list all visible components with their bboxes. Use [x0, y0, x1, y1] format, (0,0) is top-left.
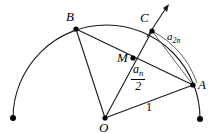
label-point-a: A [198, 78, 206, 91]
label-point-b: B [66, 10, 74, 23]
label-radius-one: 1 [146, 100, 152, 115]
point-c-dot [149, 28, 154, 33]
fraction-numerator: an [131, 63, 145, 78]
label-a-n-subscript: n [139, 68, 143, 78]
label-point-o: O [99, 121, 108, 133]
label-a-2n: a2n [167, 31, 180, 45]
label-an-over-2: an 2 [131, 63, 145, 93]
ray-through-c [147, 8, 166, 37]
fraction-denominator: 2 [131, 80, 145, 93]
point-b-dot [73, 26, 78, 31]
label-point-m: M [117, 51, 128, 64]
point-a-dot [190, 82, 195, 87]
geometry-figure: B C M A O a2n an 2 1 [0, 0, 212, 133]
diagram-canvas [0, 0, 212, 133]
arc-endpoint-right-dot [197, 116, 203, 122]
point-m-dot [130, 55, 135, 60]
segment-ob [76, 29, 105, 118]
label-a-2n-subscript: 2n [173, 36, 181, 45]
label-point-c: C [140, 11, 149, 24]
arc-endpoint-left-dot [10, 115, 16, 121]
